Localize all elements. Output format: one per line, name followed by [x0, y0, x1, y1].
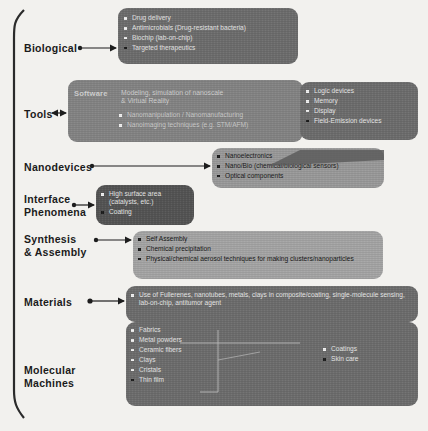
category-label-materials: Materials	[24, 296, 72, 309]
diagram-canvas: Drug delivery Antimicrobials (Drug-resis…	[0, 0, 428, 431]
list-item: Nanoelectronics	[216, 152, 384, 160]
list-item: Field-Emission devices	[305, 117, 418, 125]
category-label-nanodevices: Nanodevices	[24, 161, 92, 174]
list-item: Targeted therapeutics	[123, 44, 298, 52]
box-interface-phenomena: High surface area (catalysts, etc.) Coat…	[96, 185, 194, 225]
list-item: Chemical precipitation	[137, 245, 383, 253]
list-item: Cristals	[130, 366, 418, 374]
list-item: Metal powders	[130, 336, 418, 344]
list-item: Physical/chemical aerosol techniques for…	[137, 255, 371, 263]
box-materials: Use of Fullerenes, nanotubes, metals, cl…	[126, 286, 418, 322]
list-item: Logic devices	[305, 87, 418, 95]
tools-devices-list: Logic devices Memory Display Field-Emiss…	[300, 82, 418, 125]
list-item: Nanoimaging techniques (e.g. STM/AFM)	[118, 121, 298, 129]
molecular-list-right: Coatings Skin care	[322, 345, 359, 365]
category-label-tools: Tools	[24, 108, 53, 121]
box-tools-software: Software Modeling, simulation of nanosca…	[68, 80, 303, 142]
connector-dot	[87, 298, 92, 303]
category-label-interface-phenomena: Interface Phenomena	[24, 193, 86, 218]
box-tools-devices: Logic devices Memory Display Field-Emiss…	[300, 82, 418, 140]
list-item: Skin care	[322, 355, 359, 363]
connector-dot	[94, 238, 98, 242]
category-label-molecular-machines: Molecular Machines	[24, 364, 76, 389]
list-item: High surface area (catalysts, etc.)	[100, 190, 189, 207]
list-item: Coating	[100, 208, 194, 216]
interface-list: High surface area (catalysts, etc.) Coat…	[96, 185, 194, 217]
tools-text-line2: & Virtual Reality	[121, 97, 169, 106]
list-item: Nano/Bio (chemical/biological sensors)	[216, 162, 384, 170]
biological-list: Drug delivery Antimicrobials (Drug-resis…	[118, 8, 298, 52]
list-item: Fabrics	[130, 326, 418, 334]
molecular-list-left: Fabrics Metal powders Ceramic fibers Cla…	[126, 322, 418, 384]
list-item: Use of Fullerenes, nanotubes, metals, cl…	[130, 291, 417, 308]
nanodevices-list: Nanoelectronics Nano/Bio (chemical/biolo…	[212, 148, 384, 180]
list-item: Ceramic fibers	[130, 346, 418, 354]
list-item: Antimicrobials (Drug-resistant bacteria)	[123, 24, 298, 32]
list-item: Drug delivery	[123, 14, 298, 22]
list-item: Optical components	[216, 172, 384, 180]
category-label-biological: Biological	[24, 42, 77, 55]
materials-list: Use of Fullerenes, nanotubes, metals, cl…	[126, 286, 418, 308]
box-synthesis-assembly: Self Assembly Chemical precipitation Phy…	[133, 231, 383, 279]
category-label-synthesis-assembly: Synthesis & Assembly	[24, 233, 87, 258]
left-brace-icon	[14, 10, 24, 418]
list-item: Display	[305, 107, 418, 115]
list-item: Thin film	[130, 376, 418, 384]
box-nanodevices: Nanoelectronics Nano/Bio (chemical/biolo…	[212, 148, 384, 188]
list-item: Coatings	[322, 345, 359, 353]
box-biological: Drug delivery Antimicrobials (Drug-resis…	[118, 8, 298, 64]
software-label: Software	[74, 89, 108, 98]
list-item: Biochip (lab-on-chip)	[123, 34, 298, 42]
list-item: Self Assembly	[137, 235, 383, 243]
connector-dot	[78, 46, 82, 50]
synthesis-list: Self Assembly Chemical precipitation Phy…	[133, 231, 383, 263]
list-item: Clays	[130, 356, 418, 364]
list-item: Nanomanipulation / Nanomanufacturing	[118, 111, 298, 119]
list-item: Memory	[305, 97, 418, 105]
tools-list: Nanomanipulation / Nanomanufacturing Nan…	[118, 111, 298, 131]
box-molecular-machines: Fabrics Metal powders Ceramic fibers Cla…	[126, 322, 418, 406]
